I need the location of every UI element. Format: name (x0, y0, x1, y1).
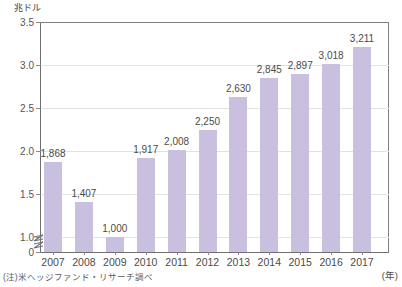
hedge-fund-assets-bar-chart: 兆ドル 01.01.52.02.53.03.5 1,8681,4071,0001… (0, 0, 402, 287)
x-tick-mark (362, 252, 363, 255)
y-tick-mark (36, 194, 41, 195)
x-tick-label: 2013 (227, 256, 250, 268)
x-tick-mark (53, 252, 54, 255)
x-tick-label: 2009 (103, 256, 126, 268)
y-tick-label: 1.0 (0, 232, 34, 243)
x-tick-label: 2010 (134, 256, 157, 268)
y-tick-label: 3.0 (0, 60, 34, 71)
x-tick-label: 2011 (165, 256, 188, 268)
x-tick-label: 2008 (72, 256, 95, 268)
x-tick-mark (238, 252, 239, 255)
chart-footnote: (注)米ヘッジファンド・リサーチ調べ (3, 270, 153, 282)
x-tick-mark (146, 252, 147, 255)
y-axis-line (40, 22, 41, 253)
x-tick-mark (331, 252, 332, 255)
y-tick-mark (36, 22, 41, 23)
bar-value-label: 2,897 (288, 60, 313, 71)
x-tick-mark (115, 252, 116, 255)
bar-value-label: 2,630 (226, 83, 251, 94)
bar-value-label: 1,917 (133, 144, 158, 155)
y-tick-label: 2.5 (0, 103, 34, 114)
bar-value-label: 2,250 (195, 116, 220, 127)
bar (199, 130, 217, 253)
y-tick-label: 2.0 (0, 146, 34, 157)
y-tick-label: 3.5 (0, 17, 34, 28)
bar (353, 47, 371, 252)
x-axis-unit-label: (年) (382, 268, 398, 282)
x-tick-mark (84, 252, 85, 255)
bar (106, 237, 124, 252)
y-tick-label: 0 (0, 247, 34, 258)
x-tick-label: 2007 (41, 256, 64, 268)
x-tick-label: 2017 (350, 256, 373, 268)
bar (75, 202, 93, 252)
bar (168, 150, 186, 252)
y-tick-label: 1.5 (0, 189, 34, 200)
bar-value-label: 2,845 (257, 64, 282, 75)
bar (44, 162, 62, 252)
bar-value-label: 3,018 (319, 50, 344, 61)
bar (322, 64, 340, 253)
bar (137, 158, 155, 252)
bar-value-label: 1,407 (71, 188, 96, 199)
bar-value-label: 2,008 (164, 136, 189, 147)
x-tick-mark (300, 252, 301, 255)
x-tick-label: 2016 (319, 256, 342, 268)
x-tick-mark (208, 252, 209, 255)
y-axis-unit-label: 兆ドル (14, 1, 41, 14)
x-tick-mark (269, 252, 270, 255)
bar-value-label: 1,868 (40, 148, 65, 159)
x-tick-label: 2012 (196, 256, 219, 268)
bar-value-label: 1,000 (102, 223, 127, 234)
y-tick-mark (36, 252, 41, 253)
bar (229, 97, 247, 252)
x-tick-mark (177, 252, 178, 255)
x-tick-label: 2014 (258, 256, 281, 268)
y-tick-mark (36, 108, 41, 109)
bar (291, 74, 309, 252)
bar (260, 78, 278, 252)
y-tick-mark (36, 65, 41, 66)
x-tick-label: 2015 (289, 256, 312, 268)
bar-value-label: 3,211 (350, 33, 374, 44)
